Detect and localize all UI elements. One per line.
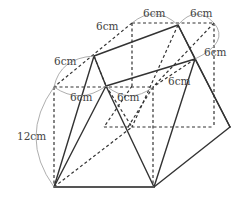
- label-upper-left-diag: 6cm: [96, 20, 119, 32]
- label-mid-right: 6cm: [168, 75, 191, 87]
- label-top-right: 6cm: [190, 7, 213, 19]
- dimension-labels: 6cm 6cm 6cm 6cm 6cm 6cm 6cm 6cm 12cm: [17, 7, 227, 142]
- label-front-right: 6cm: [117, 91, 140, 103]
- label-height: 12cm: [17, 130, 46, 142]
- label-front-left: 6cm: [70, 91, 93, 103]
- label-upper-right-diag: 6cm: [204, 46, 227, 58]
- label-top-left: 6cm: [143, 7, 166, 19]
- solid-geometry-diagram: 6cm 6cm 6cm 6cm 6cm 6cm 6cm 6cm 12cm: [0, 0, 249, 202]
- label-left-side: 6cm: [54, 55, 77, 67]
